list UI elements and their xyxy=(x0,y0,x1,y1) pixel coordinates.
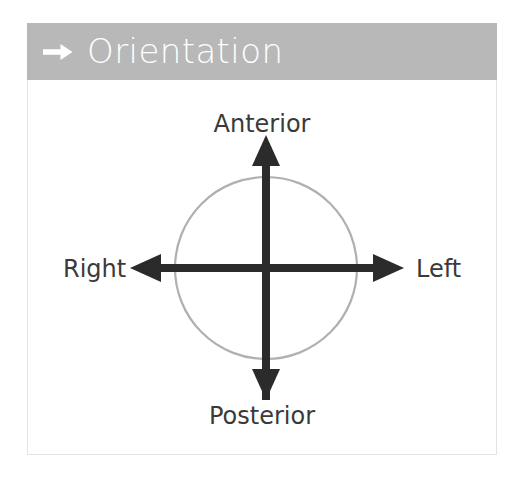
orientation-diagram: Anterior Posterior Right Left xyxy=(28,80,496,454)
vertical-axis-shaft xyxy=(262,150,270,400)
page-title: Orientation xyxy=(87,34,283,68)
posterior-arrowhead xyxy=(252,369,280,400)
right-arrowhead xyxy=(130,254,161,282)
anterior-arrowhead xyxy=(252,135,280,166)
left-arrowhead xyxy=(373,254,404,282)
section-header: Orientation xyxy=(27,23,497,80)
right-arrow-icon xyxy=(43,41,73,63)
label-anterior: Anterior xyxy=(28,112,496,136)
label-left: Left xyxy=(416,257,461,281)
slide-canvas: Orientation Anterior Posterior Right Lef… xyxy=(0,0,529,478)
label-posterior: Posterior xyxy=(28,404,496,428)
horizontal-axis-shaft xyxy=(143,264,389,272)
label-right: Right xyxy=(63,257,126,281)
